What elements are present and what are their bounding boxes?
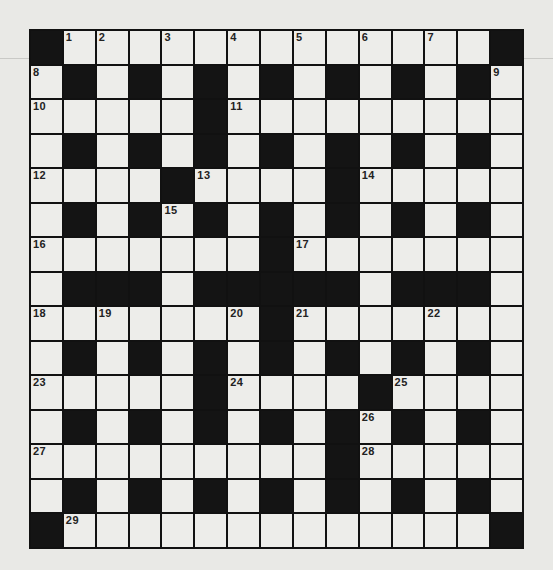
answer-cell[interactable]: 23: [31, 376, 62, 409]
answer-cell[interactable]: [97, 376, 128, 409]
answer-cell[interactable]: [97, 411, 128, 444]
answer-cell[interactable]: 25: [393, 376, 424, 409]
answer-cell[interactable]: [130, 238, 161, 271]
answer-cell[interactable]: [162, 342, 193, 375]
answer-cell[interactable]: [162, 100, 193, 133]
answer-cell[interactable]: [294, 480, 325, 513]
answer-cell[interactable]: [97, 342, 128, 375]
answer-cell[interactable]: [294, 411, 325, 444]
answer-cell[interactable]: [228, 204, 259, 237]
answer-cell[interactable]: [162, 135, 193, 168]
answer-cell[interactable]: [195, 31, 226, 64]
answer-cell[interactable]: [97, 204, 128, 237]
answer-cell[interactable]: [491, 307, 522, 340]
answer-cell[interactable]: 14: [360, 169, 391, 202]
answer-cell[interactable]: [458, 514, 489, 547]
answer-cell[interactable]: 22: [425, 307, 456, 340]
answer-cell[interactable]: [97, 238, 128, 271]
answer-cell[interactable]: [360, 100, 391, 133]
answer-cell[interactable]: [327, 514, 358, 547]
answer-cell[interactable]: 24: [228, 376, 259, 409]
answer-cell[interactable]: [491, 169, 522, 202]
answer-cell[interactable]: [458, 445, 489, 478]
answer-cell[interactable]: [491, 204, 522, 237]
answer-cell[interactable]: [97, 169, 128, 202]
answer-cell[interactable]: [425, 100, 456, 133]
answer-cell[interactable]: [130, 307, 161, 340]
answer-cell[interactable]: 8: [31, 66, 62, 99]
answer-cell[interactable]: [491, 480, 522, 513]
answer-cell[interactable]: [162, 411, 193, 444]
answer-cell[interactable]: [130, 514, 161, 547]
answer-cell[interactable]: [294, 514, 325, 547]
answer-cell[interactable]: [360, 238, 391, 271]
answer-cell[interactable]: [360, 307, 391, 340]
answer-cell[interactable]: [360, 514, 391, 547]
answer-cell[interactable]: 19: [97, 307, 128, 340]
answer-cell[interactable]: [458, 376, 489, 409]
answer-cell[interactable]: [425, 66, 456, 99]
answer-cell[interactable]: [360, 480, 391, 513]
answer-cell[interactable]: 7: [425, 31, 456, 64]
answer-cell[interactable]: [228, 238, 259, 271]
answer-cell[interactable]: 10: [31, 100, 62, 133]
answer-cell[interactable]: [228, 480, 259, 513]
answer-cell[interactable]: 3: [162, 31, 193, 64]
answer-cell[interactable]: [64, 376, 95, 409]
answer-cell[interactable]: [31, 411, 62, 444]
answer-cell[interactable]: [162, 307, 193, 340]
answer-cell[interactable]: [327, 31, 358, 64]
answer-cell[interactable]: 29: [64, 514, 95, 547]
answer-cell[interactable]: [458, 169, 489, 202]
answer-cell[interactable]: [64, 169, 95, 202]
answer-cell[interactable]: [425, 376, 456, 409]
answer-cell[interactable]: [261, 376, 292, 409]
answer-cell[interactable]: [458, 31, 489, 64]
answer-cell[interactable]: 17: [294, 238, 325, 271]
answer-cell[interactable]: [393, 169, 424, 202]
answer-cell[interactable]: [195, 445, 226, 478]
answer-cell[interactable]: [130, 169, 161, 202]
answer-cell[interactable]: 1: [64, 31, 95, 64]
answer-cell[interactable]: [97, 66, 128, 99]
answer-cell[interactable]: [31, 273, 62, 306]
answer-cell[interactable]: 12: [31, 169, 62, 202]
answer-cell[interactable]: [491, 100, 522, 133]
answer-cell[interactable]: [425, 445, 456, 478]
answer-cell[interactable]: [228, 411, 259, 444]
answer-cell[interactable]: [228, 135, 259, 168]
answer-cell[interactable]: [360, 342, 391, 375]
answer-cell[interactable]: [491, 273, 522, 306]
answer-cell[interactable]: [31, 480, 62, 513]
answer-cell[interactable]: [64, 307, 95, 340]
answer-cell[interactable]: 15: [162, 204, 193, 237]
answer-cell[interactable]: 21: [294, 307, 325, 340]
answer-cell[interactable]: [97, 135, 128, 168]
answer-cell[interactable]: [425, 204, 456, 237]
answer-cell[interactable]: [195, 514, 226, 547]
answer-cell[interactable]: 11: [228, 100, 259, 133]
answer-cell[interactable]: [31, 342, 62, 375]
answer-cell[interactable]: 13: [195, 169, 226, 202]
answer-cell[interactable]: 18: [31, 307, 62, 340]
answer-cell[interactable]: [130, 31, 161, 64]
answer-cell[interactable]: 20: [228, 307, 259, 340]
answer-cell[interactable]: [425, 238, 456, 271]
answer-cell[interactable]: [195, 307, 226, 340]
answer-cell[interactable]: 5: [294, 31, 325, 64]
answer-cell[interactable]: [491, 411, 522, 444]
answer-cell[interactable]: [327, 100, 358, 133]
answer-cell[interactable]: [228, 169, 259, 202]
answer-cell[interactable]: [393, 445, 424, 478]
answer-cell[interactable]: [261, 514, 292, 547]
answer-cell[interactable]: [64, 100, 95, 133]
answer-cell[interactable]: [261, 445, 292, 478]
answer-cell[interactable]: 28: [360, 445, 391, 478]
answer-cell[interactable]: [294, 342, 325, 375]
answer-cell[interactable]: [130, 100, 161, 133]
answer-cell[interactable]: [458, 100, 489, 133]
answer-cell[interactable]: [458, 307, 489, 340]
answer-cell[interactable]: [458, 238, 489, 271]
answer-cell[interactable]: [491, 342, 522, 375]
answer-cell[interactable]: [327, 238, 358, 271]
